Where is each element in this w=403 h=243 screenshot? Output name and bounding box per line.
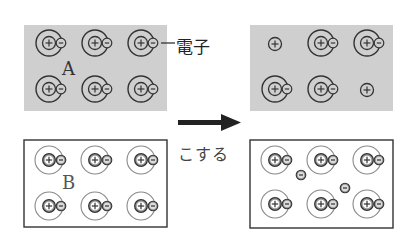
box-a-after — [250, 25, 393, 111]
box-b-before — [24, 140, 167, 227]
box-a-before — [24, 25, 175, 111]
box-b-label: B — [62, 172, 75, 193]
rub-arrow — [178, 114, 241, 131]
box-a-label: A — [62, 58, 75, 79]
rub-caption: こする — [178, 141, 229, 165]
electron-label: 電子 — [176, 33, 210, 58]
box-b-after — [250, 140, 393, 228]
